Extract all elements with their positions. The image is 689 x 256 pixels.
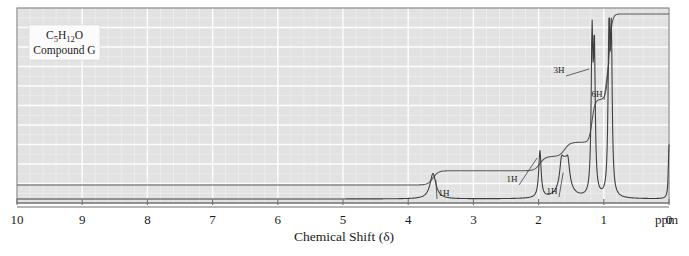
sample-label-box: C5H12O Compound G <box>29 25 100 60</box>
axis-tick-label: 6 <box>275 212 282 227</box>
axis-tick-label: 5 <box>340 212 347 227</box>
annotation-label-1h: 1H <box>507 174 519 184</box>
axis-tick-label: 8 <box>144 212 151 227</box>
ppm-unit-label: ppm <box>655 212 678 227</box>
axis-tick-label: 9 <box>79 212 86 227</box>
axis-tick-label: 7 <box>209 212 216 227</box>
axis-tick-label: 3 <box>470 212 477 227</box>
axis-tick-label: 1 <box>601 212 608 227</box>
axis-title: Chemical Shift (δ) <box>294 229 394 244</box>
axis-tick-label: 10 <box>11 212 24 227</box>
annotation-label-3h: 3H <box>554 65 566 75</box>
nmr-figure: 109876543210 ppm Chemical Shift (δ) 1H1H… <box>0 0 689 256</box>
annotation-label-6h: 6H <box>592 89 604 99</box>
annotation-label-1h: 1H <box>547 186 559 196</box>
annotation-label-1h: 1H <box>439 188 451 198</box>
compound-name: Compound G <box>33 44 95 57</box>
nmr-spectrum-svg: 109876543210 ppm Chemical Shift (δ) 1H1H… <box>0 0 689 256</box>
axis-tick-label: 4 <box>405 212 412 227</box>
axis-tick-label: 2 <box>535 212 542 227</box>
